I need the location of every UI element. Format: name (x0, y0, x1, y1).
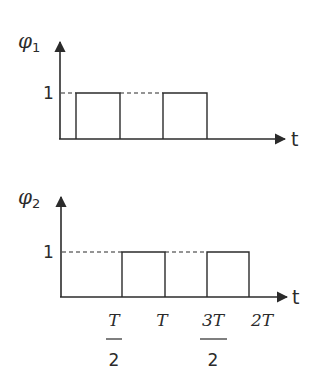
svg-text:3T: 3T (202, 310, 226, 330)
tick-label-three-half-T: 3T 2 (200, 310, 227, 370)
timing-diagram: φ1 t 1 φ2 t 1 T 2 T 3T 2 2T (0, 0, 317, 388)
level-label-phi1: 1 (43, 83, 54, 103)
x-axis-label-phi2: t (292, 286, 299, 308)
y-axis-label-phi1: φ1 (18, 29, 40, 55)
svg-text:T: T (108, 310, 121, 330)
level-label-phi2: 1 (43, 242, 54, 262)
pulse-phi2-1 (122, 252, 165, 297)
pulse-phi1-1 (76, 93, 120, 139)
pulse-phi2-2 (207, 252, 249, 297)
svg-text:2: 2 (109, 350, 120, 370)
tick-label-2T: 2T (250, 310, 275, 330)
pulse-phi1-2 (163, 93, 207, 139)
svg-text:2: 2 (208, 350, 219, 370)
tick-label-half-T: T 2 (106, 310, 122, 370)
plot-phi2: φ2 t 1 (18, 185, 299, 308)
tick-label-T: T (156, 310, 169, 330)
y-axis-label-phi2: φ2 (18, 185, 40, 211)
x-axis-label-phi1: t (291, 128, 298, 150)
plot-phi1: φ1 t 1 (18, 29, 298, 150)
x-tick-labels: T 2 T 3T 2 2T (106, 310, 275, 370)
